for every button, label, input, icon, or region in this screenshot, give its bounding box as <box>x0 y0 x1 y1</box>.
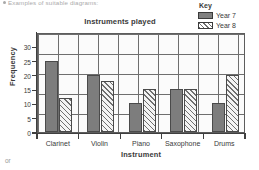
chart-title: Instruments played <box>0 17 240 26</box>
bar-clarinet-year-7 <box>45 61 58 132</box>
y-axis-tick <box>32 118 37 119</box>
x-axis-tick-label-piano: Piano <box>132 140 150 147</box>
y-axis-tick-label: 0 <box>14 130 31 137</box>
x-axis-tick-label-drums: Drums <box>214 140 235 147</box>
bar-clarinet-year-8 <box>59 98 72 132</box>
plot-wrapper <box>37 33 245 133</box>
y-axis-title: Frequency <box>8 39 17 95</box>
bar-piano-year-7 <box>129 103 142 132</box>
plot-area <box>37 33 245 133</box>
y-axis-tick-label: 10 <box>14 101 31 108</box>
top-caption: Examples of suitable diagrams: <box>3 0 98 6</box>
bullet-icon <box>3 1 6 4</box>
bottom-note: or <box>5 157 11 164</box>
x-axis-tick <box>36 134 37 139</box>
bar-drums-year-7 <box>212 103 225 132</box>
x-axis-tick <box>161 134 162 139</box>
bars-layer <box>38 34 244 132</box>
y-axis-tick <box>32 104 37 105</box>
bar-drums-year-8 <box>226 75 239 132</box>
y-axis-tick-label: 5 <box>14 115 31 122</box>
y-axis-tick-label: 30 <box>14 44 31 51</box>
bar-piano-year-8 <box>143 89 156 132</box>
y-axis-tick-label: 15 <box>14 87 31 94</box>
x-axis-tick-label-clarinet: Clarinet <box>46 140 70 147</box>
x-axis-tick-label-saxophone: Saxophone <box>165 140 200 147</box>
y-axis-tick <box>32 61 37 62</box>
top-caption-text: Examples of suitable diagrams: <box>8 0 98 6</box>
x-axis-tick <box>78 134 79 139</box>
worksheet-chart-page: { "page": { "top_caption": "Examples of … <box>0 0 259 170</box>
legend-title: Key <box>199 2 254 10</box>
x-axis-tick <box>120 134 121 139</box>
x-axis-tick <box>244 134 245 139</box>
y-axis-tick <box>32 47 37 48</box>
bar-saxophone-year-7 <box>170 89 183 132</box>
y-axis-tick <box>32 90 37 91</box>
x-axis-title: Instrument <box>37 150 245 159</box>
x-axis-tick <box>203 134 204 139</box>
y-axis-tick-label: 20 <box>14 72 31 79</box>
bar-saxophone-year-8 <box>184 89 197 132</box>
y-axis-tick <box>32 75 37 76</box>
x-axis-tick-label-violin: Violin <box>91 140 108 147</box>
bar-violin-year-7 <box>87 75 100 132</box>
bar-violin-year-8 <box>101 81 114 132</box>
x-axis-line <box>36 133 246 134</box>
y-axis-tick-label: 25 <box>14 58 31 65</box>
